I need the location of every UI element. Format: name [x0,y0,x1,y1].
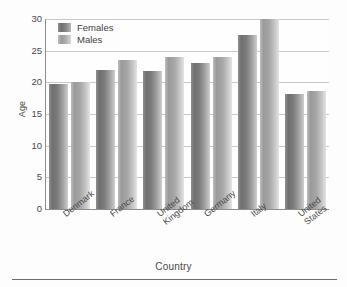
bar-denmark-females[interactable] [49,84,68,209]
chart-legend: FemalesMales [55,21,119,47]
legend-swatch-females [58,23,71,32]
plot-area [45,19,329,210]
y-axis-tick-25: 25 [18,46,42,56]
bar-group-united-kingdom [143,19,184,209]
y-axis-tick-5: 5 [18,173,42,183]
bottom-divider [12,279,337,280]
x-axis-tick-labels: DenmarkFranceUnited KingdomGermanyItalyU… [45,211,328,259]
x-axis-title: Country [0,261,347,272]
y-axis-tick-20: 20 [18,78,42,88]
bar-group-germany [191,19,232,209]
bar-group-italy [238,19,279,209]
bar-united-states-females[interactable] [285,94,304,209]
bar-united-kingdom-males[interactable] [165,57,184,209]
bar-series-layer [46,19,329,209]
y-axis-tick-10: 10 [18,141,42,151]
bar-chart-figure: Age 051015202530 FemalesMales DenmarkFra… [0,0,347,287]
bar-united-kingdom-females[interactable] [143,71,162,209]
bar-italy-males[interactable] [260,19,279,209]
y-axis-tick-0: 0 [18,204,42,214]
legend-label-males: Males [77,35,102,45]
legend-label-females: Females [77,23,113,33]
bar-france-males[interactable] [118,60,137,209]
bar-group-france [96,19,137,209]
legend-item-males[interactable]: Males [58,35,113,45]
bar-germany-males[interactable] [213,57,232,209]
bar-group-united-states [285,19,326,209]
bar-group-denmark [49,19,90,209]
bar-germany-females[interactable] [191,63,210,209]
bar-italy-females[interactable] [238,35,257,209]
legend-item-females[interactable]: Females [58,23,113,33]
y-axis-tick-labels: 051015202530 [18,19,42,209]
y-axis-tick-30: 30 [18,14,42,24]
y-axis-tick-15: 15 [18,109,42,119]
bar-france-females[interactable] [96,70,115,209]
bar-united-states-males[interactable] [307,91,326,209]
legend-swatch-males [58,35,71,44]
